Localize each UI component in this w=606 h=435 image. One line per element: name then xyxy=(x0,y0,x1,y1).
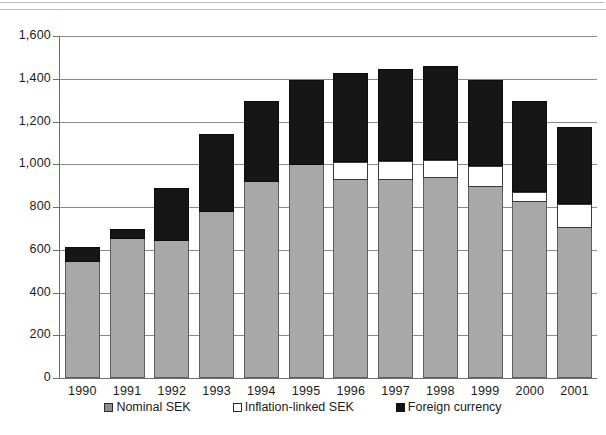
y-axis-tick-label: 0 xyxy=(0,370,51,384)
legend-item[interactable]: Nominal SEK xyxy=(104,400,190,414)
x-axis xyxy=(59,378,597,379)
legend-item[interactable]: Inflation-linked SEK xyxy=(233,400,354,414)
bar-segment-nominal-1995[interactable] xyxy=(289,165,324,378)
bar-1999[interactable] xyxy=(468,80,503,378)
legend-label: Foreign currency xyxy=(408,400,502,414)
y-axis-tick-label: 1,200 xyxy=(0,114,51,128)
bar-2000[interactable] xyxy=(512,101,547,378)
bar-1995[interactable] xyxy=(289,80,324,378)
bar-segment-nominal-1994[interactable] xyxy=(244,182,279,378)
bar-1996[interactable] xyxy=(333,73,368,378)
bar-segment-linked-2001[interactable] xyxy=(557,204,592,229)
bar-segment-linked-1998[interactable] xyxy=(423,160,458,178)
bar-segment-foreign-2000[interactable] xyxy=(512,101,547,192)
scan-artifact-line xyxy=(0,9,606,10)
bar-segment-nominal-2001[interactable] xyxy=(557,228,592,378)
bar-segment-foreign-1998[interactable] xyxy=(423,66,458,160)
bar-2001[interactable] xyxy=(557,127,592,378)
legend-swatch-nominal xyxy=(104,403,113,412)
bar-segment-foreign-1993[interactable] xyxy=(199,134,234,212)
y-axis-tick-label: 200 xyxy=(0,327,51,341)
bar-1993[interactable] xyxy=(199,134,234,378)
bar-segment-nominal-1990[interactable] xyxy=(65,262,100,378)
y-axis-tick-label: 1,000 xyxy=(0,156,51,170)
bar-segment-linked-2000[interactable] xyxy=(512,192,547,202)
stacked-bar-chart: 1,6001,4001,2001,0008006004002000 199019… xyxy=(0,18,606,390)
bar-segment-nominal-1996[interactable] xyxy=(333,180,368,378)
bar-1991[interactable] xyxy=(110,229,145,378)
y-axis-tick-label: 600 xyxy=(0,242,51,256)
bar-segment-nominal-1997[interactable] xyxy=(378,180,413,378)
legend-label: Nominal SEK xyxy=(116,400,190,414)
plot-area xyxy=(60,36,597,378)
y-axis-tick xyxy=(53,378,60,379)
bar-segment-linked-1997[interactable] xyxy=(378,161,413,180)
bar-1998[interactable] xyxy=(423,66,458,378)
chart-page: 1,6001,4001,2001,0008006004002000 199019… xyxy=(0,0,606,435)
chart-legend: Nominal SEKInflation-linked SEKForeign c… xyxy=(0,396,606,418)
y-axis-tick-label: 1,600 xyxy=(0,28,51,42)
bar-segment-foreign-1990[interactable] xyxy=(65,247,100,262)
bar-segment-linked-1999[interactable] xyxy=(468,166,503,186)
bar-segment-nominal-1993[interactable] xyxy=(199,212,234,378)
y-axis-tick-label: 1,400 xyxy=(0,71,51,85)
bar-segment-foreign-1992[interactable] xyxy=(154,188,189,241)
y-axis-tick xyxy=(53,79,60,80)
bar-1990[interactable] xyxy=(65,247,100,378)
bar-segment-foreign-1999[interactable] xyxy=(468,80,503,167)
bar-segment-nominal-2000[interactable] xyxy=(512,202,547,378)
legend-swatch-linked xyxy=(233,403,242,412)
y-axis-tick xyxy=(53,122,60,123)
y-axis-tick-label: 400 xyxy=(0,285,51,299)
bar-segment-foreign-1995[interactable] xyxy=(289,80,324,166)
bar-1994[interactable] xyxy=(244,101,279,378)
legend-swatch-foreign xyxy=(396,403,405,412)
bar-segment-nominal-1998[interactable] xyxy=(423,178,458,378)
bar-1992[interactable] xyxy=(154,188,189,378)
bar-1997[interactable] xyxy=(378,69,413,378)
y-axis-tick xyxy=(53,207,60,208)
y-axis-tick xyxy=(53,335,60,336)
y-axis-tick xyxy=(53,164,60,165)
bar-segment-foreign-2001[interactable] xyxy=(557,127,592,204)
y-axis-tick xyxy=(53,250,60,251)
bar-segment-foreign-1991[interactable] xyxy=(110,229,145,239)
bar-segment-nominal-1992[interactable] xyxy=(154,241,189,378)
bar-segment-nominal-1991[interactable] xyxy=(110,239,145,378)
legend-label: Inflation-linked SEK xyxy=(245,400,354,414)
scan-artifact-line xyxy=(0,2,604,3)
bar-segment-foreign-1996[interactable] xyxy=(333,73,368,162)
y-axis-tick-label: 800 xyxy=(0,199,51,213)
bar-segment-foreign-1994[interactable] xyxy=(244,101,279,182)
y-axis-tick xyxy=(53,36,60,37)
legend-item[interactable]: Foreign currency xyxy=(396,400,502,414)
bar-segment-nominal-1999[interactable] xyxy=(468,187,503,378)
bar-segment-linked-1996[interactable] xyxy=(333,162,368,180)
bar-segment-foreign-1997[interactable] xyxy=(378,69,413,161)
y-axis-tick xyxy=(53,293,60,294)
